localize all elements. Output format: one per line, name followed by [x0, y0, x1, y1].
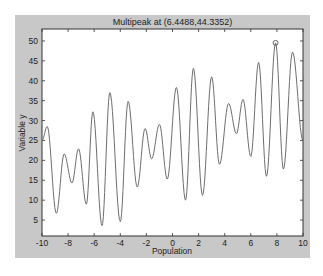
y-tick-label: 45 [29, 56, 39, 66]
y-tick-label: 15 [29, 175, 39, 185]
x-tick-label: -4 [117, 238, 125, 248]
x-tick-label: -10 [36, 238, 49, 248]
y-tick-label: 35 [29, 96, 39, 106]
y-tick-label: 5 [33, 215, 38, 225]
plot-area: -10-8-6-4-202468105101520253035404550 Po… [0, 0, 323, 276]
x-tick-label: 6 [248, 238, 253, 248]
y-tick-label: 30 [29, 116, 39, 126]
y-tick-label: 20 [29, 155, 39, 165]
x-axis-label: Population [152, 246, 192, 256]
y-tick-label: 40 [29, 76, 39, 86]
x-tick-label: 10 [298, 238, 308, 248]
y-tick-label: 10 [29, 195, 39, 205]
y-tick-label: 25 [29, 135, 39, 145]
x-tick-label: -8 [64, 238, 72, 248]
x-tick-label: 2 [196, 238, 201, 248]
x-tick-label: -2 [143, 238, 151, 248]
x-tick-label: -6 [90, 238, 98, 248]
y-tick-label: 50 [29, 36, 39, 46]
y-axis-label: Variable y [17, 114, 27, 152]
x-tick-label: 8 [275, 238, 280, 248]
axes-frame [42, 29, 303, 236]
x-tick-label: 4 [222, 238, 227, 248]
